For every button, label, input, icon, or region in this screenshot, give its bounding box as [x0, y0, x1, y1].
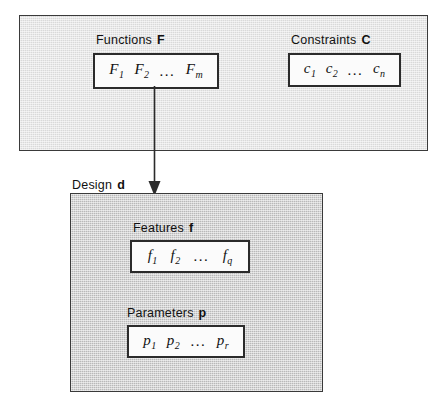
features-element-q: fq [223, 248, 233, 266]
constraints-element-2: c2 [326, 61, 338, 79]
parameters-element-2: p2 [167, 333, 180, 351]
constraints-caption-label: Constraints [291, 33, 356, 47]
design-caption-symbol: d [117, 178, 125, 192]
features-caption: Featuresf [133, 221, 193, 235]
functions-set-box: F1 F2 ... Fm [93, 53, 219, 89]
parameters-element-r: pr [217, 333, 229, 351]
features-ellipsis: ... [194, 248, 210, 265]
constraints-ellipsis: ... [348, 62, 364, 79]
constraints-set-box: c1 c2 ... cn [288, 53, 401, 87]
parameters-caption: Parametersp [127, 306, 206, 320]
constraints-caption: ConstraintsC [291, 33, 371, 47]
features-caption-symbol: f [189, 221, 193, 235]
constraints-element-n: cn [373, 61, 385, 79]
parameters-set-box: p1 p2 ... pr [127, 325, 245, 358]
parameters-ellipsis: ... [190, 333, 206, 350]
functions-ellipsis: ... [160, 63, 176, 80]
parameters-caption-label: Parameters [127, 306, 194, 320]
parameters-element-1: p1 [143, 333, 156, 351]
diagram-canvas: FunctionsF F1 F2 ... Fm ConstraintsC c1 … [0, 0, 445, 407]
design-panel [70, 193, 323, 392]
functions-to-design-arrow [147, 86, 163, 196]
features-caption-label: Features [133, 221, 184, 235]
constraints-element-1: c1 [304, 61, 316, 79]
functions-element-1: F1 [109, 62, 124, 80]
functions-caption-label: Functions [96, 33, 152, 47]
features-set-box: f1 f2 ... fq [130, 240, 250, 273]
functions-element-2: F2 [134, 62, 149, 80]
features-element-1: f1 [148, 248, 158, 266]
design-caption-label: Design [72, 178, 112, 192]
design-caption: Designd [72, 178, 125, 192]
functions-element-m: Fm [186, 62, 203, 80]
functions-caption: FunctionsF [96, 33, 165, 47]
features-element-2: f2 [171, 248, 181, 266]
functions-caption-symbol: F [157, 33, 165, 47]
constraints-caption-symbol: C [361, 33, 370, 47]
parameters-caption-symbol: p [199, 306, 207, 320]
